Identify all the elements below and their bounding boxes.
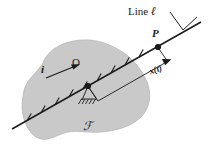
rigid-body-blob <box>22 40 150 139</box>
point-o-dot <box>85 83 91 89</box>
kinematics-figure: Line ℓ P O i x(t) ℱ <box>0 0 210 160</box>
figure-canvas <box>0 0 210 160</box>
point-p-dot <box>155 44 161 50</box>
